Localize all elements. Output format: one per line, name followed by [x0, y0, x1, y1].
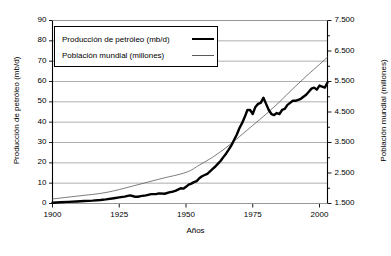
x-axis-tick-label: 1900 [33, 210, 73, 219]
x-axis-tick-label: 1950 [166, 210, 206, 219]
y-axis-right-tick-label: 4.500 [335, 107, 355, 116]
x-axis-tick-label: 2000 [299, 210, 339, 219]
y-axis-right-tick-label: 3.500 [335, 137, 355, 146]
series-line-poblacion-mundial [53, 57, 328, 199]
legend-item-produccion-petroleo: Producción de petróleo (mb/d) [62, 32, 214, 46]
y-axis-left-tick-label: 70 [38, 56, 47, 65]
chart-container: Producción de petróleo (mb/d) Población … [0, 0, 391, 256]
x-axis-tick-label: 1925 [99, 210, 139, 219]
x-axis-ticks [53, 204, 320, 208]
y-axis-right-ticks [328, 21, 332, 204]
y-axis-right-tick-label: 2.500 [335, 168, 355, 177]
y-axis-left-tick-label: 20 [38, 157, 47, 166]
legend-item-poblacion-mundial: Población mundial (millones) [62, 48, 214, 62]
legend-label: Producción de petróleo (mb/d) [62, 35, 170, 44]
y-axis-right-tick-label: 5.500 [335, 76, 355, 85]
y-axis-left-tick-label: 30 [38, 137, 47, 146]
legend-swatch-thick-line-icon [192, 38, 214, 40]
x-axis-tick-label: 1975 [233, 210, 273, 219]
legend-label: Población mundial (millones) [62, 51, 164, 60]
y-axis-left-tick-label: 60 [38, 76, 47, 85]
y-axis-right-tick-label: 6.500 [335, 46, 355, 55]
y-axis-left-tick-label: 90 [38, 15, 47, 24]
y-axis-left-tick-label: 80 [38, 35, 47, 44]
y-axis-left-tick-label: 50 [38, 96, 47, 105]
y-axis-left-tick-label: 0 [42, 198, 46, 207]
y-axis-right-tick-label: 1.500 [335, 198, 355, 207]
legend: Producción de petróleo (mb/d) Población … [54, 26, 218, 67]
y-axis-right-tick-label: 7.500 [335, 15, 355, 24]
legend-swatch-thin-line-icon [192, 55, 214, 56]
y-axis-left-tick-label: 40 [38, 117, 47, 126]
y-axis-left-tick-label: 10 [38, 178, 47, 187]
